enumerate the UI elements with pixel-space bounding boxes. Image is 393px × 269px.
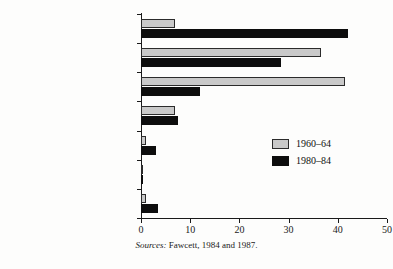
legend-item: 1980–84 bbox=[272, 154, 331, 168]
category-tick bbox=[137, 131, 141, 132]
legend-swatch-1960-64 bbox=[272, 139, 289, 149]
plot-area: AsiaNorth/Central AmericaEuropeSouth Ame… bbox=[141, 14, 387, 218]
bar-old bbox=[141, 19, 175, 28]
bar-new bbox=[141, 175, 143, 184]
bar-old bbox=[141, 77, 345, 86]
source-text: Fawcett, 1984 and 1987. bbox=[169, 240, 258, 250]
bar-new bbox=[141, 116, 178, 125]
legend: 1960–64 1980–84 bbox=[272, 137, 331, 171]
category-row: Other bbox=[141, 189, 387, 218]
category-tick bbox=[137, 101, 141, 102]
source-caption: Sources: Fawcett, 1984 and 1987. bbox=[0, 240, 393, 251]
category-tick bbox=[137, 189, 141, 190]
x-tick bbox=[289, 219, 290, 223]
category-tick bbox=[137, 14, 141, 15]
value-axis-line bbox=[141, 218, 387, 219]
category-row: South America bbox=[141, 101, 387, 130]
legend-swatch-1980-84 bbox=[272, 156, 289, 166]
category-row: Europe bbox=[141, 72, 387, 101]
bar-old bbox=[141, 106, 175, 115]
category-row: Asia bbox=[141, 14, 387, 43]
x-tick bbox=[338, 219, 339, 223]
category-row: North/Central America bbox=[141, 43, 387, 72]
bar-new bbox=[141, 87, 200, 96]
bar-new bbox=[141, 146, 156, 155]
x-tick bbox=[239, 219, 240, 223]
x-tick bbox=[190, 219, 191, 223]
legend-label-1980-84: 1980–84 bbox=[296, 154, 331, 168]
bar-old bbox=[141, 136, 146, 145]
x-tick-label: 0 bbox=[126, 224, 156, 236]
x-tick bbox=[387, 219, 388, 223]
x-tick-label: 20 bbox=[224, 224, 254, 236]
category-tick bbox=[137, 218, 141, 219]
x-tick-label: 50 bbox=[372, 224, 393, 236]
bar-new bbox=[141, 58, 281, 67]
bar-new bbox=[141, 204, 158, 213]
category-tick bbox=[137, 160, 141, 161]
source-label: Sources: bbox=[135, 240, 166, 250]
category-tick bbox=[137, 72, 141, 73]
category-tick bbox=[137, 43, 141, 44]
chart-figure: AsiaNorth/Central AmericaEuropeSouth Ame… bbox=[0, 0, 393, 269]
legend-item: 1960–64 bbox=[272, 137, 331, 151]
category-row: Africa bbox=[141, 131, 387, 160]
bar-old bbox=[141, 194, 146, 203]
bar-new bbox=[141, 29, 348, 38]
x-tick-label: 10 bbox=[175, 224, 205, 236]
x-tick-label: 40 bbox=[323, 224, 353, 236]
category-row: Oceanic bbox=[141, 160, 387, 189]
x-tick bbox=[141, 219, 142, 223]
bar-old bbox=[141, 165, 143, 174]
legend-label-1960-64: 1960–64 bbox=[296, 137, 331, 151]
x-tick-label: 30 bbox=[274, 224, 304, 236]
bar-old bbox=[141, 48, 321, 57]
